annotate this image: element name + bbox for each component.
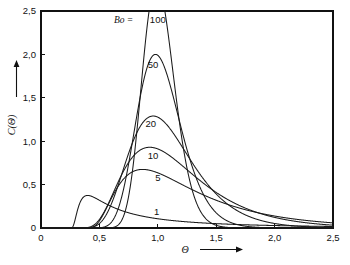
chart-annotations: Bo = bbox=[114, 15, 133, 25]
curve-bo-1 bbox=[41, 195, 333, 228]
curve-labels-group: 10050201051 bbox=[146, 14, 166, 216]
x-tick-label: 1,5 bbox=[210, 232, 223, 243]
y-tick-label: 0 bbox=[31, 222, 36, 233]
annotation-bo-prefix: Bo = bbox=[114, 15, 133, 25]
x-axis-title: Θ bbox=[181, 244, 188, 255]
x-tick-label: 0,5 bbox=[93, 232, 106, 243]
y-tick-label: 1,5 bbox=[23, 92, 36, 103]
y-tick-label: 2,5 bbox=[23, 5, 36, 16]
curve-label-bo-20: 20 bbox=[146, 118, 157, 129]
y-tick-label: 0,5 bbox=[23, 179, 36, 190]
curve-series-group bbox=[41, 11, 333, 228]
x-tick-label: 2,0 bbox=[268, 232, 281, 243]
curve-bo-100 bbox=[41, 11, 333, 228]
y-axis-tick-labels: 00,51,01,52,02,5 bbox=[23, 5, 36, 233]
curve-label-bo-10: 10 bbox=[148, 150, 159, 161]
plot-frame-border bbox=[41, 11, 333, 228]
curve-bo-50 bbox=[41, 54, 333, 228]
x-axis-tick-labels: 00,51,01,52,02,5 bbox=[38, 232, 339, 243]
chart-figure: 00,51,01,52,02,5 00,51,01,52,02,5 100502… bbox=[0, 0, 350, 265]
rtd-line-chart: 00,51,01,52,02,5 00,51,01,52,02,5 100502… bbox=[0, 0, 350, 265]
plot-frame bbox=[41, 11, 333, 228]
y-tick-label: 1,0 bbox=[23, 136, 36, 147]
y-axis-arrow-head bbox=[14, 60, 20, 67]
curve-label-bo-50: 50 bbox=[148, 59, 159, 70]
curve-label-bo-1: 1 bbox=[154, 206, 159, 217]
curve-bo-5 bbox=[41, 169, 333, 228]
x-tick-label: 0 bbox=[38, 232, 43, 243]
curve-bo-20 bbox=[41, 116, 333, 228]
y-axis-ticks bbox=[41, 11, 45, 185]
y-axis-title: C(Θ) bbox=[6, 114, 18, 135]
curve-label-bo-100: 100 bbox=[150, 14, 166, 25]
curve-label-bo-5: 5 bbox=[155, 172, 160, 183]
x-axis-arrow-head bbox=[236, 247, 243, 253]
y-tick-label: 2,0 bbox=[23, 49, 36, 60]
x-tick-label: 2,5 bbox=[326, 232, 339, 243]
x-tick-label: 1,0 bbox=[151, 232, 164, 243]
